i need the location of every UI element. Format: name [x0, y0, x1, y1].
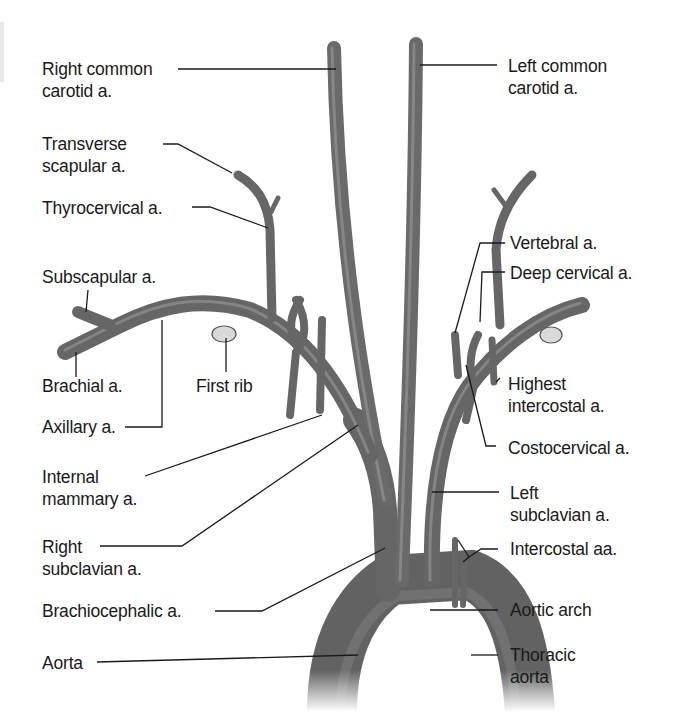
label-transverse-scapular: Transverse scapular a.	[42, 133, 127, 177]
anatomy-diagram: Right common carotid a. Left common caro…	[0, 0, 693, 712]
label-thyrocervical: Thyrocervical a.	[42, 197, 162, 219]
label-aortic-arch: Aortic arch	[510, 599, 591, 621]
first-rib-right	[212, 326, 236, 342]
label-thoracic-aorta: Thoracic aorta	[510, 644, 576, 688]
label-line: Right	[42, 536, 142, 558]
label-subscapular: Subscapular a.	[42, 266, 156, 288]
label-internal-mammary: Internal mammary a.	[42, 466, 137, 510]
label-line: subclavian a.	[42, 558, 142, 580]
label-left-subclavian: Left subclavian a.	[510, 482, 610, 526]
label-right-subclavian: Right subclavian a.	[42, 536, 142, 580]
label-line: aorta	[510, 666, 576, 688]
label-line: Thoracic	[510, 644, 576, 666]
right-internal-mammary-vessel	[320, 320, 322, 410]
label-line: Internal	[42, 466, 137, 488]
label-costocervical: Costocervical a.	[508, 437, 629, 459]
subscapular-vessel	[78, 312, 110, 325]
label-line: subclavian a.	[510, 504, 610, 526]
label-line: Left	[510, 482, 610, 504]
label-intercostal: Intercostal aa.	[510, 538, 617, 560]
thyrocervical-vessel	[238, 175, 272, 318]
label-left-common-carotid: Left common carotid a.	[508, 55, 607, 99]
label-line: carotid a.	[508, 77, 607, 99]
label-first-rib: First rib	[196, 375, 253, 397]
label-deep-cervical: Deep cervical a.	[510, 262, 632, 284]
first-rib-left	[540, 327, 562, 343]
label-brachiocephalic: Brachiocephalic a.	[42, 600, 181, 622]
label-line: mammary a.	[42, 488, 137, 510]
label-aorta: Aorta	[42, 652, 83, 674]
label-line: Right common	[42, 58, 152, 80]
label-right-common-carotid: Right common carotid a.	[42, 58, 152, 102]
label-axillary: Axillary a.	[42, 416, 116, 438]
label-line: scapular a.	[42, 155, 127, 177]
label-brachial: Brachial a.	[42, 375, 122, 397]
label-line: Left common	[508, 55, 607, 77]
label-line: Highest	[508, 373, 604, 395]
label-line: Transverse	[42, 133, 127, 155]
label-line: intercostal a.	[508, 395, 604, 417]
label-line: carotid a.	[42, 80, 152, 102]
left-highest-intercostal-vessel	[492, 340, 494, 382]
label-highest-intercostal: Highest intercostal a.	[508, 373, 604, 417]
label-vertebral: Vertebral a.	[510, 232, 597, 254]
